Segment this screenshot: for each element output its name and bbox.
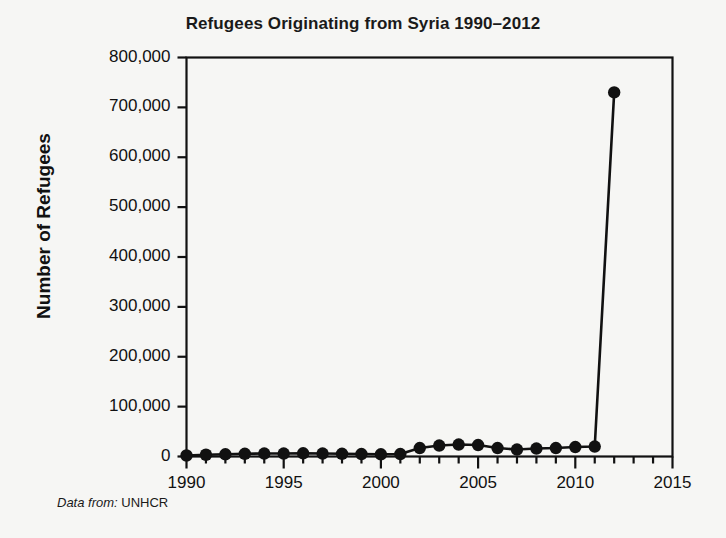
data-point [258,447,270,459]
data-point [472,439,484,451]
y-tick-label: 500,000 [0,196,171,216]
source-caption: Data from: UNHCR [57,495,168,510]
y-tick-label: 400,000 [0,246,171,266]
plot-area: 0100,000200,000300,000400,000500,000600,… [0,0,726,538]
data-point [414,442,426,454]
y-tick-label: 800,000 [0,47,171,67]
data-point [200,449,212,461]
data-point [336,448,348,460]
data-point [375,448,387,460]
data-point [180,449,192,461]
data-series-markers [180,86,620,461]
y-tick-label: 600,000 [0,146,171,166]
x-axis-ticks [187,457,673,469]
axis-frame [187,58,673,457]
data-point [511,443,523,455]
data-point [278,447,290,459]
data-point [530,442,542,454]
data-point [608,86,620,98]
y-tick-label: 200,000 [0,346,171,366]
data-point [297,447,309,459]
y-axis-ticks [178,58,187,457]
series-polyline [187,92,615,455]
x-tick-label: 2010 [535,473,615,493]
data-point [452,438,464,450]
x-tick-label: 2000 [341,473,421,493]
data-point [550,442,562,454]
data-point [316,447,328,459]
y-tick-label: 0 [0,446,171,466]
x-tick-label: 1990 [147,473,227,493]
data-series-line [187,92,615,455]
y-tick-label: 700,000 [0,96,171,116]
data-point [491,442,503,454]
data-point [219,448,231,460]
data-point [569,441,581,453]
caption-value: UNHCR [118,495,169,510]
data-point [589,440,601,452]
x-tick-label: 2005 [438,473,518,493]
caption-key: Data from: [57,495,118,510]
data-point [355,448,367,460]
x-tick-label: 2015 [633,473,713,493]
x-tick-label: 1995 [244,473,324,493]
y-tick-label: 100,000 [0,396,171,416]
data-point [433,439,445,451]
chart-figure: Refugees Originating from Syria 1990–201… [0,0,726,538]
data-point [394,448,406,460]
data-point [239,448,251,460]
y-tick-label: 300,000 [0,296,171,316]
